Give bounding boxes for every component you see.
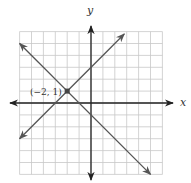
x-axis-label: x [180, 96, 187, 109]
y-axis-label: y [86, 4, 94, 17]
coordinate-graph: x y (−2, 1) [0, 0, 191, 183]
point-label: (−2, 1) [30, 87, 62, 97]
graph-svg: x y (−2, 1) [0, 0, 191, 183]
axes [10, 26, 173, 180]
intersection-point [65, 89, 70, 94]
